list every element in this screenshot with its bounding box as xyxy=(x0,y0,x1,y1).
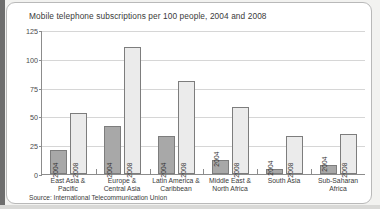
bar-2008-3[interactable]: 2008 xyxy=(178,81,195,174)
page-left-edge-strip xyxy=(0,0,5,209)
bar-group: 20042008 xyxy=(150,31,204,174)
y-axis-tick-label: 75 xyxy=(30,84,38,93)
x-axis-category-line: Europe & xyxy=(95,177,149,185)
y-axis-tick-mark xyxy=(39,31,42,32)
chart-title: Mobile telephone subscriptions per 100 p… xyxy=(29,11,267,21)
bar-2004-1[interactable]: 2004 xyxy=(50,150,67,174)
plot-area: 2004200820042008200420082004200820042008… xyxy=(41,31,365,175)
y-axis-tick-label: 125 xyxy=(26,27,38,36)
y-axis-tick-label: 100 xyxy=(26,55,38,64)
x-axis-category-label: Sub-SaharanAfrica xyxy=(311,177,365,194)
bar-2008-1[interactable]: 2008 xyxy=(70,113,87,174)
bar-year-label: 2004 xyxy=(52,162,59,177)
y-axis-tick-label: 50 xyxy=(30,113,38,122)
chart-source: Source: International Telecommunication … xyxy=(29,194,167,201)
bar-year-label: 2004 xyxy=(213,151,220,166)
x-axis-category-line: Africa xyxy=(311,185,365,193)
x-axis-category-line: South Asia xyxy=(257,177,311,185)
x-axis-category-line: Sub-Saharan xyxy=(311,177,365,185)
y-axis-tick-label: 0 xyxy=(34,171,38,180)
y-axis-tick-mark xyxy=(39,146,42,147)
chart-page: Mobile telephone subscriptions per 100 p… xyxy=(0,0,380,209)
bar-group: 20042008 xyxy=(42,31,96,174)
bar-group: 20042008 xyxy=(257,31,311,174)
bar-year-label: 2008 xyxy=(126,162,133,177)
x-axis-category-label: Europe &Central Asia xyxy=(95,177,149,194)
bar-2004-2[interactable]: 2004 xyxy=(104,126,121,174)
x-axis-labels: East Asia &PacificEurope &Central AsiaLa… xyxy=(41,177,365,194)
bar-year-label: 2008 xyxy=(180,162,187,177)
x-axis-category-line: Central Asia xyxy=(95,185,149,193)
page-bottom-edge-strip xyxy=(0,205,380,209)
x-axis-category-label: South Asia xyxy=(257,177,311,194)
bar-year-label: 2004 xyxy=(321,156,328,171)
bar-group: 20042008 xyxy=(203,31,257,174)
bar-year-label: 2004 xyxy=(160,162,167,177)
bar-2004-4[interactable]: 2004 xyxy=(212,160,229,174)
x-axis-category-line: Middle East & xyxy=(203,177,257,185)
y-axis-tick-mark xyxy=(39,175,42,176)
bar-2008-2[interactable]: 2008 xyxy=(124,47,141,174)
bar-year-label: 2008 xyxy=(233,162,240,177)
x-axis-category-line: Pacific xyxy=(41,185,95,193)
x-axis-category-label: Latin America &Caribbean xyxy=(149,177,203,194)
bar-groups: 2004200820042008200420082004200820042008… xyxy=(42,31,365,174)
x-axis-category-line: East Asia & xyxy=(41,177,95,185)
bar-2008-6[interactable]: 2008 xyxy=(340,134,357,174)
bar-year-label: 2008 xyxy=(287,162,294,177)
bar-2008-5[interactable]: 2008 xyxy=(286,136,303,174)
bar-2008-4[interactable]: 2008 xyxy=(232,107,249,174)
bar-group: 20042008 xyxy=(311,31,365,174)
bar-2004-6[interactable]: 2004 xyxy=(320,165,337,174)
x-axis-category-label: Middle East &North Africa xyxy=(203,177,257,194)
bar-year-label: 2008 xyxy=(72,162,79,177)
x-axis-category-line: Latin America & xyxy=(149,177,203,185)
y-axis-tick-mark xyxy=(39,60,42,61)
bar-year-label: 2004 xyxy=(106,162,113,177)
bar-2004-5[interactable]: 2004 xyxy=(266,169,283,174)
y-axis-tick-mark xyxy=(39,117,42,118)
x-axis-category-line: Caribbean xyxy=(149,185,203,193)
bar-2004-3[interactable]: 2004 xyxy=(158,136,175,174)
x-axis-category-label: East Asia &Pacific xyxy=(41,177,95,194)
bar-group: 20042008 xyxy=(96,31,150,174)
y-axis-tick-mark xyxy=(39,89,42,90)
bar-year-label: 2008 xyxy=(341,162,348,177)
chart-panel: Mobile telephone subscriptions per 100 p… xyxy=(6,2,372,204)
y-axis-tick-label: 25 xyxy=(30,142,38,151)
x-axis-category-line: North Africa xyxy=(203,185,257,193)
bar-year-label: 2004 xyxy=(267,161,274,176)
